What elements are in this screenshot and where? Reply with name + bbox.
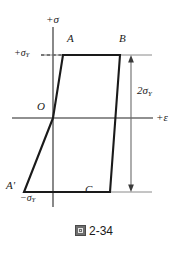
point-label-a: A (67, 33, 74, 44)
dimension-arrowhead-bottom (128, 185, 134, 193)
point-label-b: B (119, 33, 126, 44)
figure-container: +σ +ε +σY −σY A B O A' C 2σY 2-34 (0, 0, 188, 255)
dimension-label-subscript: Y (148, 90, 152, 97)
figure-caption: 2-34 (0, 224, 188, 238)
hysteresis-loop-path (24, 55, 120, 192)
tick-positive-subscript: Y (26, 51, 29, 58)
stress-strain-plot (0, 0, 188, 255)
tick-negative-base: −σ (20, 192, 32, 203)
figure-caption-number: 2-34 (89, 224, 113, 238)
tick-negative-subscript: Y (32, 196, 35, 203)
tick-label-negative-yield: −σY (20, 193, 35, 204)
tick-label-positive-yield: +σY (14, 48, 29, 59)
dimension-arrowhead-top (128, 55, 134, 63)
axis-label-epsilon: +ε (156, 112, 168, 123)
tick-positive-base: +σ (14, 47, 26, 58)
point-label-a-prime: A' (6, 180, 15, 191)
figure-caption-cjk-icon (75, 225, 86, 236)
point-label-c: C (85, 184, 92, 195)
dimension-label-base: 2σ (137, 84, 148, 96)
axis-label-sigma: +σ (46, 14, 59, 25)
point-label-o: O (37, 101, 45, 112)
dimension-label-2sigma: 2σY (137, 85, 152, 97)
